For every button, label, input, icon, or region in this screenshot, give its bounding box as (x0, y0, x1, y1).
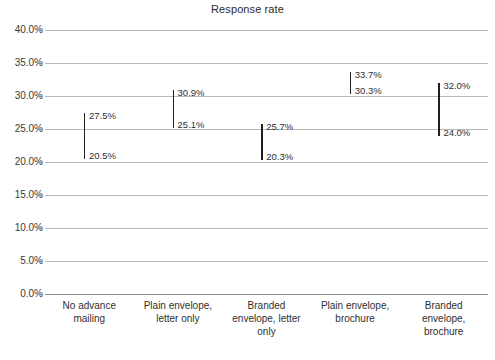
y-axis: 40.0%35.0%30.0%25.0%20.0%15.0%10.0%5.0%0… (0, 30, 43, 294)
gridline (45, 294, 488, 295)
x-axis-category-label: Plain envelope,letter only (134, 299, 223, 357)
x-axis-category-label-line: Branded (401, 299, 486, 312)
x-axis-category-labels: No advancemailingPlain envelope,letter o… (45, 299, 488, 357)
x-axis-category-label: Plain envelope,brochure (311, 299, 400, 357)
value-label-low: 24.0% (443, 128, 470, 138)
x-axis-category-label-line: envelope, (401, 312, 486, 325)
value-label-low: 25.1% (178, 120, 205, 130)
gridline (45, 63, 488, 64)
range-bar (438, 83, 439, 136)
y-axis-tick-mark (38, 162, 43, 163)
y-axis-tick-label: 30.0% (3, 91, 43, 101)
y-axis-tick-label: 15.0% (3, 190, 43, 200)
x-axis-category-label: Brandedenvelope, letteronly (222, 299, 311, 357)
y-axis-tick-mark (38, 228, 43, 229)
plot-area: 27.5%20.5%30.9%25.1%25.7%20.3%33.7%30.3%… (45, 30, 488, 294)
y-axis-tick-label: 20.0% (3, 157, 43, 167)
value-label-high: 27.5% (89, 111, 116, 121)
gridline (45, 162, 488, 163)
x-axis-category-label-line: brochure (313, 312, 398, 325)
x-axis-category-label: Brandedenvelope,brochure (399, 299, 488, 357)
range-bar (261, 124, 262, 160)
gridline (45, 228, 488, 229)
x-axis-category-label-line: Plain envelope, (313, 299, 398, 312)
x-axis-category-label-line: letter only (136, 312, 221, 325)
x-axis-category-label-line: only (224, 325, 309, 338)
y-axis-tick-mark (38, 30, 43, 31)
chart-title: Response rate (0, 3, 495, 15)
y-axis-tick-label: 0.0% (3, 289, 43, 299)
y-axis-tick-label: 25.0% (3, 124, 43, 134)
x-axis-category-label-line: envelope, letter (224, 312, 309, 325)
y-axis-tick-mark (38, 129, 43, 130)
x-axis-category-label-line: mailing (47, 312, 132, 325)
range-bar (84, 113, 85, 159)
value-label-low: 20.5% (89, 151, 116, 161)
value-label-high: 32.0% (443, 81, 470, 91)
y-axis-tick-label: 40.0% (3, 25, 43, 35)
x-axis-category-label-line: Plain envelope, (136, 299, 221, 312)
y-axis-tick-mark (38, 96, 43, 97)
value-label-low: 20.3% (266, 152, 293, 162)
y-axis-tick-label: 35.0% (3, 58, 43, 68)
x-axis-category-label: No advancemailing (45, 299, 134, 357)
gridline (45, 195, 488, 196)
x-axis-category-label-line: brochure (401, 325, 486, 338)
gridline (45, 261, 488, 262)
y-axis-tick-mark (38, 195, 43, 196)
chart-canvas: Response rate 40.0%35.0%30.0%25.0%20.0%1… (0, 0, 495, 360)
x-axis-category-label-line: Branded (224, 299, 309, 312)
value-label-high: 33.7% (355, 70, 382, 80)
y-axis-tick-mark (38, 294, 43, 295)
y-axis-tick-mark (38, 63, 43, 64)
x-axis-category-label-line: No advance (47, 299, 132, 312)
value-label-high: 30.9% (178, 88, 205, 98)
value-label-high: 25.7% (266, 122, 293, 132)
y-axis-tick-label: 5.0% (3, 256, 43, 266)
gridline (45, 96, 488, 97)
value-label-low: 30.3% (355, 86, 382, 96)
range-bar (173, 90, 174, 128)
y-axis-tick-label: 10.0% (3, 223, 43, 233)
y-axis-tick-mark (38, 261, 43, 262)
range-bar (350, 72, 351, 94)
gridline (45, 30, 488, 31)
